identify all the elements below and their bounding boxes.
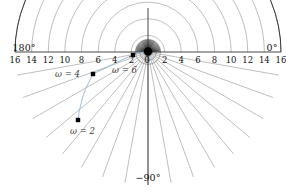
marker-label: ω = 4 <box>55 69 80 79</box>
angle-label-0: 0° <box>267 42 278 53</box>
axis-tick-left-8: 8 <box>79 55 84 65</box>
axis-tick-left-16: 16 <box>10 55 21 65</box>
axis-tick-right-6: 6 <box>195 55 200 65</box>
axis-tick-right-10: 10 <box>226 55 237 65</box>
marker-label: ω = 6 <box>112 65 137 75</box>
axis-tick-left-12: 12 <box>43 55 54 65</box>
plot-canvas: ω = 6ω = 4ω = 2 161412108642024681012141… <box>0 0 286 193</box>
axis-tick-left-14: 14 <box>26 55 37 65</box>
axis-tick-left-10: 10 <box>59 55 70 65</box>
marker-label: ω = 2 <box>70 126 95 136</box>
angle-label-180: 180° <box>13 42 36 53</box>
axis-tick-right-8: 8 <box>212 55 217 65</box>
axis-tick-right-16: 16 <box>276 55 286 65</box>
data-point-marker <box>76 118 80 122</box>
axis-tick-right-14: 14 <box>259 55 270 65</box>
axis-tick-left-6: 6 <box>95 55 100 65</box>
angle-label-minus90: −90° <box>136 172 161 183</box>
axis-tick-right-12: 12 <box>242 55 253 65</box>
polar-plot-figure: ω = 6ω = 4ω = 2 161412108642024681012141… <box>0 0 286 193</box>
axis-tick-center-0: 0 <box>144 55 149 65</box>
data-point-marker <box>91 72 95 76</box>
axis-tick-right-2: 2 <box>162 55 167 65</box>
axis-tick-left-2: 2 <box>129 55 134 65</box>
axis-tick-left-4: 4 <box>112 55 117 65</box>
axis-tick-right-4: 4 <box>179 55 184 65</box>
